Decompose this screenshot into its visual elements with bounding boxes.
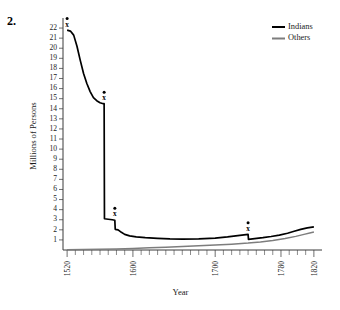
y-axis-title-text: Millions of Persons bbox=[28, 102, 38, 170]
x-tick-label: 1820 bbox=[310, 261, 319, 276]
x-axis-title-text: Year bbox=[173, 287, 189, 297]
y-tick-label: 16 bbox=[49, 83, 57, 92]
y-tick-label: 9 bbox=[53, 154, 57, 163]
x-tick-label: 1600 bbox=[129, 261, 138, 276]
y-tick-label: 3 bbox=[53, 214, 57, 223]
data-point-markers: xxxx bbox=[65, 17, 250, 233]
marker-x-label: x bbox=[246, 225, 250, 233]
y-tick-label: 18 bbox=[49, 63, 57, 72]
y-tick-label: 4 bbox=[53, 204, 57, 213]
y-tick-label: 6 bbox=[53, 184, 57, 193]
chart-legend: IndiansOthers bbox=[272, 22, 313, 43]
y-tick-label: 8 bbox=[53, 164, 57, 173]
y-tick-label: 5 bbox=[53, 194, 57, 203]
y-axis-ticks: 12345678910111213141516171819202122 bbox=[49, 23, 63, 244]
y-tick-label: 12 bbox=[49, 124, 57, 133]
chart-plot: 12345678910111213141516171819202122 1520… bbox=[0, 0, 340, 310]
y-tick-label: 11 bbox=[50, 134, 58, 143]
y-tick-label: 17 bbox=[49, 73, 57, 82]
y-tick-label: 15 bbox=[49, 93, 57, 102]
y-tick-label: 14 bbox=[49, 104, 57, 113]
y-tick-label: 20 bbox=[49, 43, 57, 52]
figure-container: 2. 12345678910111213141516171819202122 1… bbox=[0, 0, 340, 310]
x-axis-title: Year bbox=[173, 287, 189, 297]
marker-x-label: x bbox=[113, 210, 117, 218]
marker-x-label: x bbox=[102, 94, 106, 102]
y-tick-label: 13 bbox=[49, 114, 57, 123]
y-tick-label: 1 bbox=[53, 235, 57, 244]
marker-x-label: x bbox=[65, 21, 69, 29]
series-line-indians bbox=[67, 30, 314, 239]
y-axis-title: Millions of Persons bbox=[28, 102, 38, 170]
y-tick-label: 19 bbox=[49, 53, 57, 62]
y-tick-label: 22 bbox=[49, 23, 57, 32]
x-axis-ticks: 15201600170017801820 bbox=[63, 250, 319, 276]
legend-label: Others bbox=[288, 33, 310, 42]
y-tick-label: 10 bbox=[49, 144, 57, 153]
y-tick-label: 21 bbox=[49, 33, 57, 42]
x-tick-label: 1700 bbox=[211, 261, 220, 276]
legend-label: Indians bbox=[288, 22, 313, 31]
y-tick-label: 2 bbox=[53, 225, 57, 234]
x-tick-label: 1780 bbox=[277, 261, 286, 276]
y-tick-label: 7 bbox=[53, 174, 57, 183]
x-tick-label: 1520 bbox=[63, 261, 72, 276]
data-series-group bbox=[67, 30, 314, 250]
